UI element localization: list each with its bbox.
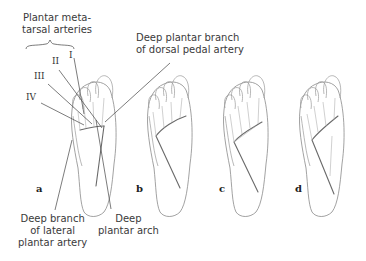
label-line: Deep plantar branch xyxy=(136,32,244,44)
leader-lateral xyxy=(55,140,72,210)
label-line: Deep xyxy=(98,213,159,225)
label-line: tarsal arteries xyxy=(22,24,92,36)
panel-label-b: b xyxy=(136,183,143,194)
panel-label-d: d xyxy=(295,183,302,194)
label-deep-plantar-arch: Deep plantar arch xyxy=(98,213,159,237)
label-line: plantar artery xyxy=(18,237,87,249)
label-deep-branch-lateral: Deep branch of lateral plantar artery xyxy=(18,213,87,249)
foot-a xyxy=(71,76,116,217)
label-plantar-metatarsal: Plantar meta- tarsal arteries xyxy=(22,12,92,36)
label-line: plantar arch xyxy=(98,225,159,237)
label-deep-plantar-branch: Deep plantar branch of dorsal pedal arte… xyxy=(136,32,244,56)
panel-label-a: a xyxy=(36,183,42,194)
roman-III: III xyxy=(34,71,45,81)
roman-II: II xyxy=(52,56,59,66)
roman-I: I xyxy=(69,50,73,60)
panel-label-c: c xyxy=(219,183,225,194)
foot-c xyxy=(223,76,268,217)
foot-b xyxy=(147,76,192,217)
label-line: of dorsal pedal artery xyxy=(136,44,244,56)
foot-d xyxy=(299,76,344,217)
brace xyxy=(26,40,74,49)
label-line: Plantar meta- xyxy=(22,12,92,24)
label-line: of lateral xyxy=(18,225,87,237)
roman-IV: IV xyxy=(26,92,36,102)
label-line: Deep branch xyxy=(18,213,87,225)
